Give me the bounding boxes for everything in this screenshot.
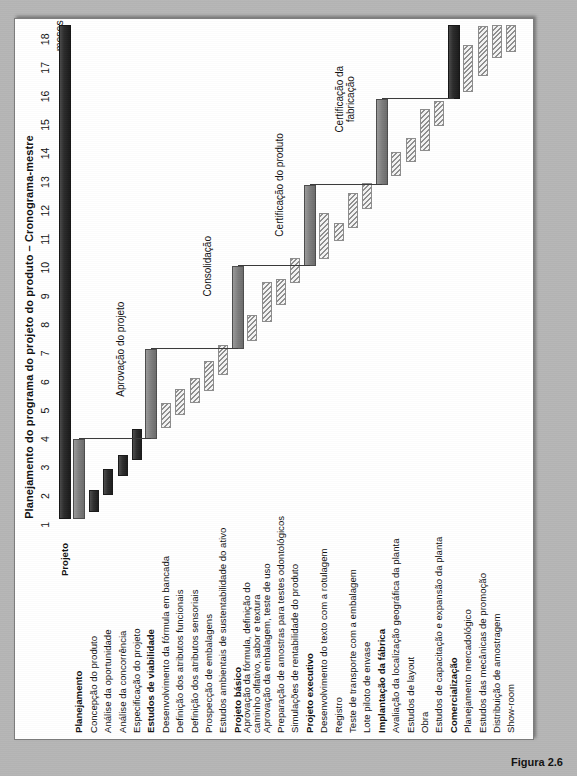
gantt-bar[interactable]: [204, 361, 214, 391]
task-label: Aprovação da embalagem, teste de uso: [261, 543, 272, 733]
gantt-row[interactable]: Planejamento: [73, 18, 87, 739]
gantt-row[interactable]: Distribuição de amostragem: [491, 18, 505, 739]
axis-tick-month-11: 11: [39, 227, 51, 251]
gantt-figure: Planejamento do programa do projeto do p…: [14, 18, 534, 740]
task-label: Estudos de layout: [405, 543, 416, 733]
axis-tick-month-5: 5: [39, 399, 51, 423]
gantt-bar[interactable]: [478, 26, 488, 76]
task-label: Estudos de viabilidade: [145, 543, 156, 733]
axis-tick-month-8: 8: [39, 313, 51, 337]
gantt-row[interactable]: Concepção do produto: [88, 18, 102, 739]
summary-connector: [79, 438, 151, 439]
axis-tick-month-7: 7: [39, 341, 51, 365]
gantt-bar[interactable]: [334, 223, 344, 240]
gantt-bar[interactable]: [59, 25, 71, 519]
gantt-row[interactable]: Análise da oportunidade: [102, 18, 116, 739]
gantt-bar[interactable]: [420, 109, 430, 150]
figure-inner-border: Planejamento do programa do projeto do p…: [14, 18, 534, 740]
gantt-bar[interactable]: [348, 193, 358, 227]
gantt-row[interactable]: Definição dos atributos sensoriais: [189, 18, 203, 739]
summary-connector: [382, 98, 454, 99]
gantt-row[interactable]: Simulações de rentabilidade do produto: [289, 18, 303, 739]
task-label: Obra: [419, 543, 430, 733]
axis-tick-month-9: 9: [39, 284, 51, 308]
gantt-row[interactable]: Projeto: [59, 18, 73, 739]
task-label: Análise da concorrência: [117, 543, 128, 733]
gantt-row[interactable]: Obra: [419, 18, 433, 739]
gantt-row[interactable]: Prospecção de embalagens: [203, 18, 217, 739]
gantt-row[interactable]: Estudos de layout: [405, 18, 419, 739]
gantt-row[interactable]: Projeto executivo: [304, 18, 318, 739]
gantt-row[interactable]: Definição dos atributos funcionais: [174, 18, 188, 739]
axis-tick-month-15: 15: [39, 113, 51, 137]
gantt-bar[interactable]: [175, 389, 185, 415]
task-label: Show-room: [505, 543, 516, 733]
task-label: Definição dos atributos funcionais: [174, 543, 185, 733]
gantt-bar[interactable]: [89, 490, 99, 511]
gantt-bar[interactable]: [304, 185, 316, 266]
task-label: Análise da oportunidade: [102, 543, 113, 733]
task-label: Comercialização: [448, 543, 459, 733]
summary-connector: [310, 184, 382, 185]
gantt-row[interactable]: Avaliação da localização geográfica da p…: [390, 18, 404, 739]
gantt-bar[interactable]: [406, 138, 416, 162]
axis-tick-month-3: 3: [39, 456, 51, 480]
gantt-row[interactable]: Aprovação da embalagem, teste de uso: [261, 18, 275, 739]
gantt-row[interactable]: Implantação da fábrica: [376, 18, 390, 739]
gantt-bar[interactable]: [391, 152, 401, 176]
task-label: Projeto: [59, 543, 70, 589]
milestone-label: Consolidação: [202, 186, 213, 346]
task-label: Especificação do projeto: [131, 543, 142, 733]
gantt-bar[interactable]: [506, 25, 516, 52]
gantt-bar[interactable]: [463, 45, 473, 92]
gantt-row[interactable]: Lote piloto de envase: [361, 18, 375, 739]
gantt-row[interactable]: Aprovação da fórmula, definição do camin…: [246, 18, 260, 739]
task-label: Estudos das mecânicas de promoção: [477, 543, 488, 733]
task-label: Planejamento: [73, 543, 84, 733]
gantt-row[interactable]: Estudos de capacitação e expansão da pla…: [433, 18, 447, 739]
gantt-bar[interactable]: [145, 349, 157, 439]
gantt-bar[interactable]: [73, 439, 85, 519]
axis-tick-month-14: 14: [39, 142, 51, 166]
gantt-bar[interactable]: [232, 266, 244, 349]
task-label: Concepção do produto: [88, 543, 99, 733]
gantt-row[interactable]: Show-room: [505, 18, 519, 739]
gantt-bar[interactable]: [132, 429, 142, 460]
gantt-bar[interactable]: [190, 378, 200, 404]
gantt-row[interactable]: Especificação do projeto: [131, 18, 145, 739]
gantt-bar[interactable]: [434, 101, 444, 127]
gantt-bar[interactable]: [319, 213, 329, 259]
gantt-row[interactable]: Planejamento mercadológico: [462, 18, 476, 739]
axis-tick-month-1: 1: [39, 513, 51, 537]
task-label: Planejamento mercadológico: [462, 543, 473, 733]
task-label: Registro: [333, 543, 344, 733]
gantt-row[interactable]: Estudos ambientais de sustentabilidade d…: [217, 18, 231, 739]
gantt-row[interactable]: Desenvolvimento da fórmula em bancada: [160, 18, 174, 739]
task-label: Avaliação da localização geográfica da p…: [390, 543, 401, 733]
figure-rotation-wrapper: Planejamento do programa do projeto do p…: [14, 18, 534, 740]
gantt-bar[interactable]: [290, 258, 300, 284]
month-axis: 123456789101112131415161718meses: [39, 18, 55, 739]
task-label: Implantação da fábrica: [376, 543, 387, 733]
gantt-bar[interactable]: [262, 282, 272, 322]
gantt-bar[interactable]: [247, 315, 257, 341]
task-label: Preparação de amostras para testes odont…: [275, 543, 286, 733]
gantt-row[interactable]: Comercialização: [448, 18, 462, 739]
gantt-bar[interactable]: [492, 25, 502, 58]
gantt-bar[interactable]: [276, 279, 286, 305]
gantt-row[interactable]: Estudos de viabilidade: [145, 18, 159, 739]
axis-tick-month-10: 10: [39, 256, 51, 280]
gantt-row[interactable]: Desenvolvimento do texto com a rotulagem: [318, 18, 332, 739]
gantt-bar[interactable]: [376, 99, 388, 185]
gantt-body: ProjetoPlanejamentoConcepção do produtoA…: [59, 18, 533, 739]
gantt-bar[interactable]: [161, 403, 171, 427]
gantt-bar[interactable]: [448, 25, 460, 99]
gantt-bar[interactable]: [118, 455, 128, 476]
task-label: Estudos ambientais de sustentabilidade d…: [217, 543, 228, 733]
gantt-row[interactable]: Estudos das mecânicas de promoção: [477, 18, 491, 739]
gantt-bar[interactable]: [218, 345, 228, 375]
gantt-bar[interactable]: [103, 469, 113, 495]
gantt-bar[interactable]: [362, 184, 372, 210]
task-label: Teste de transporte com a embalagem: [347, 543, 358, 733]
milestone-label: Certificação do produto: [274, 105, 285, 265]
